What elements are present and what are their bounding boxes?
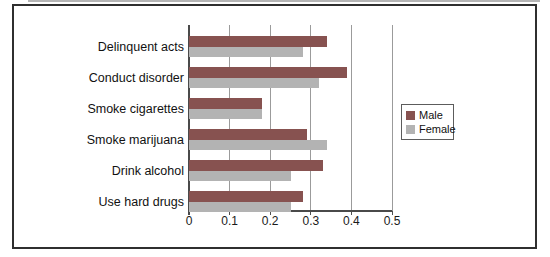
bar-female-drink-alcohol — [189, 171, 291, 182]
gridline-0.3 — [310, 25, 311, 211]
x-tick-label: 0 — [174, 214, 204, 228]
bar-female-smoke-cigarettes — [189, 109, 262, 120]
legend-swatch-female-icon — [406, 125, 415, 134]
bar-female-conduct-disorder — [189, 78, 319, 89]
legend-label-female: Female — [419, 124, 456, 135]
chart-plot-area: 00.10.20.30.40.5Delinquent actsConduct d… — [0, 0, 550, 257]
legend-label-male: Male — [419, 110, 443, 121]
category-label-delinquent-acts: Delinquent acts — [20, 39, 184, 55]
legend-swatch-male-icon — [406, 111, 415, 120]
category-label-conduct-disorder: Conduct disorder — [20, 70, 184, 86]
bar-female-smoke-marijuana — [189, 140, 327, 151]
bar-male-conduct-disorder — [189, 67, 347, 78]
bar-male-use-hard-drugs — [189, 191, 303, 202]
x-tick-label: 0.4 — [336, 214, 366, 228]
gridline-0.5 — [392, 25, 393, 211]
bar-female-use-hard-drugs — [189, 202, 291, 213]
category-label-drink-alcohol: Drink alcohol — [20, 163, 184, 179]
category-label-smoke-cigarettes: Smoke cigarettes — [20, 101, 184, 117]
gridline-0.4 — [351, 25, 352, 211]
figure-root: 00.10.20.30.40.5Delinquent actsConduct d… — [0, 0, 550, 257]
legend-item-male: Male — [406, 110, 449, 121]
x-tick-label: 0.5 — [377, 214, 407, 228]
bar-male-delinquent-acts — [189, 36, 327, 47]
x-tick-label: 0.1 — [215, 214, 245, 228]
x-tick-label: 0.3 — [296, 214, 326, 228]
category-label-smoke-marijuana: Smoke marijuana — [20, 132, 184, 148]
bar-male-drink-alcohol — [189, 160, 323, 171]
x-tick-label: 0.2 — [255, 214, 285, 228]
category-label-use-hard-drugs: Use hard drugs — [20, 194, 184, 210]
bar-male-smoke-cigarettes — [189, 98, 262, 109]
bar-female-delinquent-acts — [189, 47, 303, 58]
legend-box: MaleFemale — [401, 104, 454, 140]
bar-male-smoke-marijuana — [189, 129, 307, 140]
legend-item-female: Female — [406, 124, 449, 135]
